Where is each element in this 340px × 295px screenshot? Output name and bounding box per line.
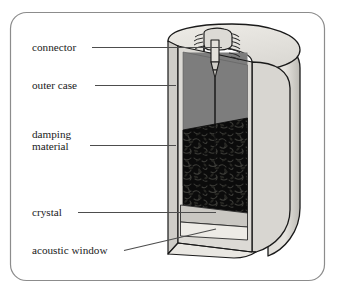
label-crystal: crystal (32, 206, 62, 218)
diagram-canvas: connector outer case damping material cr… (0, 0, 340, 295)
label-outer-case: outer case (32, 79, 77, 91)
label-damping-material-line2: material (32, 140, 69, 152)
outer-case-front-right-wall (252, 62, 290, 252)
connector-barrel (211, 40, 219, 62)
connector-taper (211, 62, 219, 70)
outer-case-left-wall (168, 41, 178, 254)
transducer-assembly (168, 24, 300, 258)
transducer-diagram-figure: connector outer case damping material cr… (0, 0, 340, 295)
label-connector: connector (32, 41, 76, 53)
label-acoustic-window: acoustic window (32, 244, 108, 256)
label-damping-material-line1: damping (32, 128, 72, 140)
